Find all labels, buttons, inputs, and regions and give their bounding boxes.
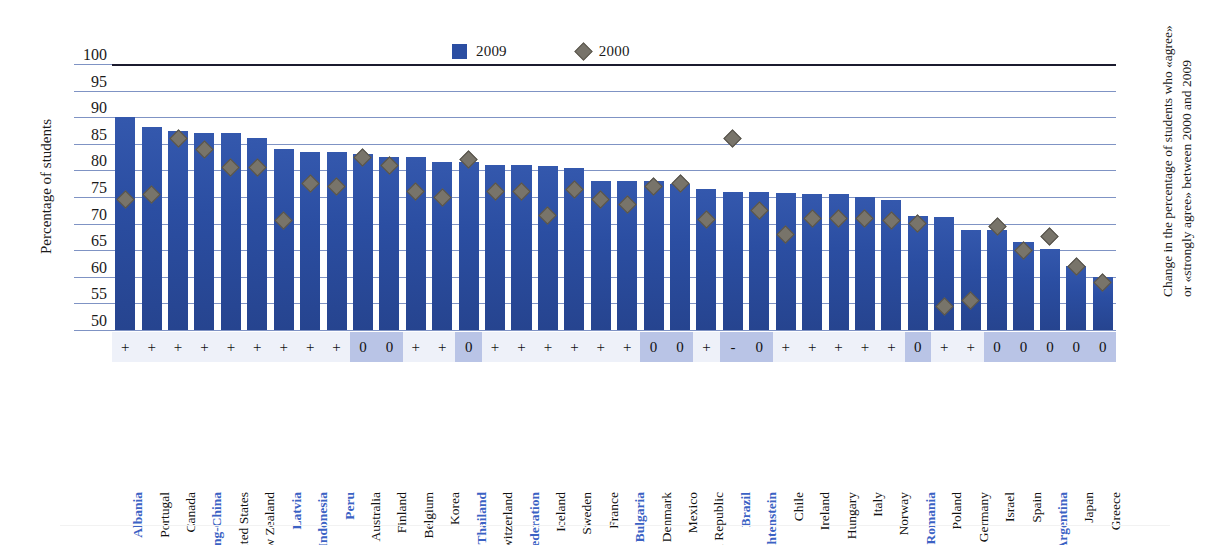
marker-2000 xyxy=(724,129,742,147)
change-cell-belgium: + xyxy=(403,332,429,362)
country-label-sweden: Sweden xyxy=(579,492,595,535)
bar-2009 xyxy=(274,149,294,330)
country-label-bulgaria: Bulgaria xyxy=(632,492,648,542)
country-label-russian-federation: Russian Federation xyxy=(527,492,543,545)
change-cell-latvia: + xyxy=(271,332,297,362)
marker-2000 xyxy=(1041,228,1059,246)
y-tick-label-75: 75 xyxy=(69,179,111,197)
diamond-swatch-icon xyxy=(574,42,592,60)
bar-slot xyxy=(588,64,614,330)
bar-slot xyxy=(271,64,297,330)
country-label-norway: Norway xyxy=(896,492,912,536)
change-cell-new-zealand: + xyxy=(244,332,270,362)
change-cell-ireland: + xyxy=(799,332,825,362)
y-tick-label-90: 90 xyxy=(69,99,111,117)
change-cell-iceland: + xyxy=(535,332,561,362)
country-label-poland: Poland xyxy=(949,492,965,530)
legend-label-2009: 2009 xyxy=(476,43,507,60)
y-tick-rule-95 xyxy=(74,91,112,92)
country-label-thailand: Thailand xyxy=(474,492,490,545)
country-label-new-zealand: New Zealand xyxy=(262,492,278,545)
change-cell-chile: + xyxy=(773,332,799,362)
bar-2009 xyxy=(379,157,399,330)
country-label-indonesia: Indonesia xyxy=(315,492,331,545)
right-axis-note: Change in the percentage of students who… xyxy=(1158,17,1215,297)
bar-slot xyxy=(693,64,719,330)
country-label-canada: Canada xyxy=(183,492,199,532)
bar-2009 xyxy=(644,181,664,330)
bar-slot xyxy=(931,64,957,330)
y-tick-rule-80 xyxy=(74,170,112,171)
y-tick-label-100: 100 xyxy=(69,46,111,64)
change-cell-france: + xyxy=(588,332,614,362)
change-cell-korea: + xyxy=(429,332,455,362)
x-axis-category-labels: AlbaniaPortugalCanadaHong Kong-ChinaUnit… xyxy=(112,366,1116,496)
change-cell-brazil: - xyxy=(720,332,746,362)
country-label-united-states: United States xyxy=(236,492,252,545)
legend-item-2000: 2000 xyxy=(577,43,630,60)
change-cell-finland: 0 xyxy=(376,332,402,362)
change-cell-japan: 0 xyxy=(1063,332,1089,362)
bar-2009 xyxy=(1040,249,1060,330)
change-cell-italy: + xyxy=(852,332,878,362)
legend-label-2000: 2000 xyxy=(599,43,630,60)
change-cell-denmark: 0 xyxy=(640,332,666,362)
country-label-brazil: Brazil xyxy=(738,492,754,527)
country-label-italy: Italy xyxy=(870,492,886,517)
change-cell-norway: + xyxy=(878,332,904,362)
bar-2009 xyxy=(538,166,558,330)
bar-2009 xyxy=(723,192,743,330)
change-cell-greece: 0 xyxy=(1090,332,1116,362)
country-label-israel: Israel xyxy=(1002,492,1018,522)
country-label-romania: Romania xyxy=(923,492,939,545)
country-label-latvia: Latvia xyxy=(289,492,305,530)
faint-cropped-title xyxy=(420,0,840,12)
country-label-portugal: Portugal xyxy=(157,492,173,538)
bar-2009 xyxy=(168,131,188,331)
bar-slot xyxy=(825,64,851,330)
country-label-albania: Albania xyxy=(130,492,146,538)
bar-slot xyxy=(667,64,693,330)
y-tick-label-95: 95 xyxy=(69,73,111,91)
bar-2009 xyxy=(961,230,981,330)
change-cell-thailand: 0 xyxy=(455,332,481,362)
change-cell-romania: 0 xyxy=(905,332,931,362)
y-tick-rule-90 xyxy=(74,117,112,118)
country-label-belgium: Belgium xyxy=(421,492,437,539)
change-cell-albania: + xyxy=(112,332,138,362)
bar-2009 xyxy=(353,154,373,330)
bar-slot xyxy=(905,64,931,330)
bar-swatch-icon xyxy=(452,44,467,59)
country-label-mexico: Mexico xyxy=(685,492,701,533)
country-label-liechtenstein: Liechtenstein xyxy=(764,492,780,545)
bar-slot xyxy=(640,64,666,330)
country-label-czech-republic: Czech Republic xyxy=(711,492,727,545)
change-cell-peru: + xyxy=(323,332,349,362)
country-label-japan: Japan xyxy=(1081,492,1097,523)
bar-slot xyxy=(852,64,878,330)
bar-2009 xyxy=(987,230,1007,330)
bar-slot xyxy=(218,64,244,330)
bar-slot xyxy=(957,64,983,330)
y-tick-rule-85 xyxy=(74,144,112,145)
y-tick-label-80: 80 xyxy=(69,152,111,170)
bar-slot xyxy=(720,64,746,330)
bar-slot xyxy=(1037,64,1063,330)
change-cell-russian-federation: + xyxy=(508,332,534,362)
y-tick-rule-100 xyxy=(74,64,112,65)
y-axis-title: Percentage of students xyxy=(38,77,55,297)
country-label-spain: Spain xyxy=(1029,492,1045,523)
change-cell-mexico: 0 xyxy=(667,332,693,362)
bar-2009 xyxy=(115,117,135,330)
y-tick-rule-70 xyxy=(74,224,112,225)
bar-2009 xyxy=(670,184,690,330)
y-tick-label-85: 85 xyxy=(69,126,111,144)
bar-2009 xyxy=(459,162,479,330)
bar-slot xyxy=(1063,64,1089,330)
change-cell-israel: 0 xyxy=(984,332,1010,362)
change-cell-canada: + xyxy=(165,332,191,362)
country-label-hong-kong-china: Hong Kong-China xyxy=(209,492,225,545)
change-cell-indonesia: + xyxy=(297,332,323,362)
change-cell-portugal: + xyxy=(138,332,164,362)
bar-slot xyxy=(984,64,1010,330)
